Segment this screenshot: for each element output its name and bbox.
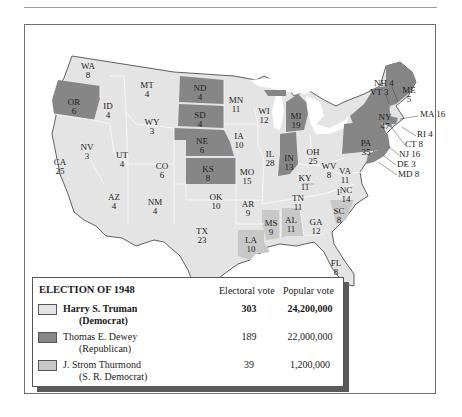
electoral-votes: 303	[229, 303, 269, 314]
state-label-id: ID 4	[103, 102, 113, 120]
state-label-ia: IA 10	[234, 132, 244, 150]
state-label-al: AL 11	[285, 216, 297, 234]
candidate-name: Harry S. Truman	[63, 303, 137, 315]
state-label-wi: WI 12	[258, 107, 270, 125]
state-label-la: LA 10	[245, 236, 257, 254]
state-label-mn: MN 11	[229, 96, 244, 114]
state-label-nm: NM 4	[148, 198, 163, 216]
callout-label: RI 4	[417, 130, 433, 139]
candidate-party: (S. R. Democrat)	[79, 371, 147, 383]
state-label-tx: TX 23	[196, 227, 208, 245]
state-label-tn: TN 11	[292, 194, 304, 212]
popular-vote-header: Popular vote	[283, 285, 334, 296]
state-label-pa: PA 35	[361, 139, 372, 157]
callout-label: VT 3	[370, 88, 389, 97]
state-label-mi: MI 19	[291, 112, 302, 130]
callout-label: CT 8	[405, 140, 423, 149]
state-label-wy: WY 3	[145, 118, 160, 136]
legend-row-truman: Harry S. Truman (Democrat) 303 24,200,00…	[33, 302, 343, 330]
state-label-az: AZ 4	[108, 193, 120, 211]
state-label-wv: WV 8	[322, 162, 337, 180]
legend-row-thurmond: J. Strom Thurmond (S. R. Democrat) 39 1,…	[33, 358, 343, 386]
state-label-ut: UT 4	[116, 151, 128, 169]
state-label-in: IN 13	[284, 154, 294, 172]
state-label-oh: OH 25	[307, 148, 320, 166]
state-label-va: VA 11	[339, 167, 351, 185]
callout-label: NJ 16	[399, 150, 420, 159]
state-label-sc: SC 8	[333, 207, 344, 225]
states-rights-swatch	[38, 360, 57, 371]
state-label-ms: MS 9	[264, 219, 277, 237]
state-label-or: OR 6	[68, 98, 81, 116]
state-label-fl: FL 8	[331, 259, 342, 277]
state-label-ks: KS 8	[202, 165, 214, 183]
legend-title: ELECTION OF 1948	[39, 284, 135, 295]
republican-swatch	[38, 332, 57, 343]
callout-label: 1	[336, 188, 341, 197]
election-legend: ELECTION OF 1948 Electoral vote Popular …	[32, 277, 344, 387]
state-label-ok: OK 10	[210, 193, 223, 211]
candidate-party: (Democrat)	[79, 315, 128, 327]
candidate-party: (Republican)	[79, 343, 131, 355]
state-label-ne: NE 6	[196, 137, 208, 155]
state-label-ky: KY 11	[299, 174, 312, 192]
callout-label: DE 3	[397, 160, 416, 169]
popular-votes: 22,000,000	[277, 331, 343, 342]
democrat-swatch	[38, 304, 57, 315]
electoral-votes: 189	[229, 331, 269, 342]
callout-label: MD 8	[398, 170, 419, 179]
state-label-mt: MT 4	[140, 81, 154, 99]
state-label-nd: ND 4	[194, 84, 207, 102]
state-label-wa: WA 8	[81, 62, 95, 80]
callout-label: MA 16	[420, 110, 445, 119]
electoral-vote-header: Electoral vote	[219, 285, 275, 296]
state-label-il: IL 28	[266, 150, 275, 168]
top-rule	[24, 7, 437, 8]
state-label-nc: NC 14	[340, 186, 353, 204]
popular-votes: 24,200,000	[277, 303, 343, 314]
state-label-me: ME 5	[402, 86, 416, 104]
state-label-ga: GA 12	[310, 218, 323, 236]
candidate-name: J. Strom Thurmond	[63, 359, 141, 371]
state-label-mo: MO 15	[240, 168, 255, 186]
state-label-sd: SD 4	[194, 111, 206, 129]
state-label-nv: NV 3	[81, 143, 94, 161]
state-label-ca: CA 25	[54, 158, 67, 176]
popular-votes: 1,200,000	[277, 359, 343, 370]
electoral-votes: 39	[229, 359, 269, 370]
state-label-ar: AR 9	[242, 200, 255, 218]
candidate-name: Thomas E. Dewey	[63, 331, 137, 343]
state-label-co: CO 6	[156, 162, 169, 180]
state-label-ny: NY 47	[379, 113, 392, 131]
legend-row-dewey: Thomas E. Dewey (Republican) 189 22,000,…	[33, 330, 343, 358]
